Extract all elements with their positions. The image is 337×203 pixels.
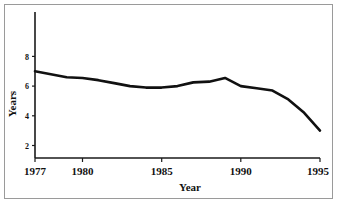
x-tick-label-1977: 1977 [24,165,47,177]
y-tick-label-2: 2 [25,142,29,151]
y-tick-label-8: 8 [25,53,29,62]
y-tick-label-4: 4 [25,112,29,121]
line-chart: 2 4 6 8 1977 1980 1985 1990 1995 Year Ye… [0,0,337,203]
x-tick-label-1985: 1985 [151,165,174,177]
y-tick-label-6: 6 [25,82,29,91]
figure-root: 2 4 6 8 1977 1980 1985 1990 1995 Year Ye… [0,0,337,203]
x-tick-label-1990: 1990 [230,165,253,177]
x-axis-title: Year [179,181,201,193]
data-series-years [35,71,320,130]
y-axis-title: Years [6,90,18,117]
x-tick-label-1980: 1980 [72,165,95,177]
x-tick-label-1995: 1995 [307,165,330,177]
